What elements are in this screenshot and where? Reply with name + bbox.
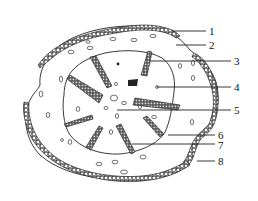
label-8: 8: [218, 155, 224, 167]
label-7: 7: [218, 139, 224, 151]
vascular-bundle: [141, 51, 152, 76]
label-2: 2: [209, 39, 215, 51]
label-4: 4: [234, 81, 240, 93]
cork-layer-right: [181, 53, 218, 168]
label-3: 3: [234, 55, 240, 67]
label-1: 1: [209, 25, 215, 37]
vascular-bundle: [90, 56, 112, 88]
labels: 1 2 3 4 5 6 7 8: [117, 25, 240, 167]
stem-cross-section-diagram: 1 2 3 4 5 6 7 8: [0, 0, 258, 201]
vascular-bundle: [86, 126, 103, 150]
vascular-bundle: [143, 116, 164, 137]
vascular-bundle: [116, 124, 135, 154]
label-5: 5: [234, 104, 240, 116]
vascular-bundle: [64, 115, 93, 127]
vascular-bundle: [67, 75, 103, 103]
cork-layer-top: [38, 25, 180, 68]
vascular-bundle: [128, 79, 138, 86]
